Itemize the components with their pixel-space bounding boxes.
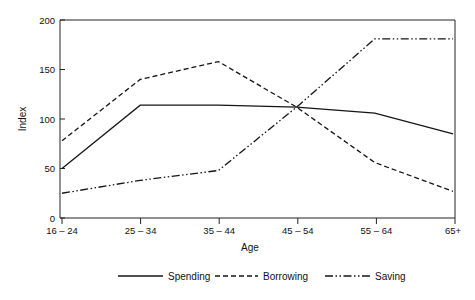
x-tick-label-25-34: 25 – 34: [125, 225, 157, 236]
y-tick-label-0: 0: [50, 213, 55, 224]
x-axis-ticks: [62, 218, 455, 224]
x-tick-label-45-54: 45 – 54: [282, 225, 314, 236]
y-axis-tick-labels: 0 50 100 150 200: [39, 15, 55, 224]
y-tick-label-100: 100: [39, 114, 55, 125]
x-axis-tick-labels: 16 – 24 25 – 34 35 – 44 45 – 54 55 – 64 …: [46, 225, 461, 236]
x-axis-title: Age: [241, 242, 259, 253]
y-tick-label-50: 50: [44, 163, 55, 174]
y-axis-ticks: [60, 20, 65, 218]
chart-figure: 0 50 100 150 200 Index 16 – 24 25 – 34 3…: [0, 0, 475, 300]
legend-label-spending: Spending: [168, 271, 210, 282]
x-tick-label-65plus: 65+: [445, 225, 462, 236]
legend-label-saving: Saving: [375, 271, 406, 282]
x-tick-label-16-24: 16 – 24: [46, 225, 78, 236]
chart-legend: Spending Borrowing Saving: [118, 271, 406, 282]
x-tick-label-55-64: 55 – 64: [361, 225, 393, 236]
series-line-spending: [62, 105, 453, 168]
y-axis-title: Index: [17, 107, 28, 131]
y-tick-label-200: 200: [39, 15, 55, 26]
line-chart-svg: 0 50 100 150 200 Index 16 – 24 25 – 34 3…: [0, 0, 475, 300]
legend-label-borrowing: Borrowing: [263, 271, 308, 282]
series-line-borrowing: [62, 62, 453, 192]
x-tick-label-35-44: 35 – 44: [203, 225, 235, 236]
y-tick-label-150: 150: [39, 64, 55, 75]
